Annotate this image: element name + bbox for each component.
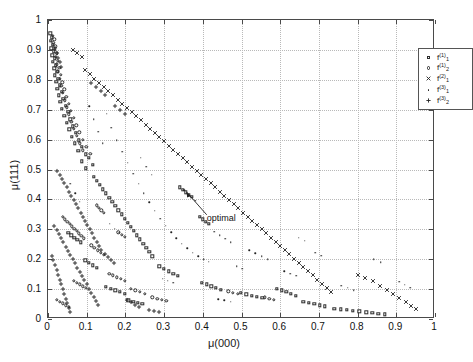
legend-label: f(3)2: [437, 96, 449, 106]
x-tick-label: 0.9: [388, 321, 402, 332]
legend-marker-circle-icon: [425, 65, 432, 72]
legend-label: f(2)1: [437, 74, 449, 84]
x-tick-label: 0.5: [234, 321, 248, 332]
x-axis-title: μ(000): [0, 337, 448, 349]
legend: f(1)1f(1)2f(2)1f(3)1f(3)2: [418, 48, 473, 110]
x-tick-label: 0.2: [117, 321, 131, 332]
tick-mark-x: [435, 20, 436, 24]
legend-marker-x-icon: [425, 75, 432, 82]
x-tick-label: 1: [431, 321, 437, 332]
legend-label: f(1)1: [437, 53, 449, 63]
y-axis-title: μ(111): [8, 135, 20, 215]
y-tick-label: 0.7: [11, 103, 41, 114]
x-tick-label: 0.3: [156, 321, 170, 332]
plot-area: optimal f(1)1f(1)2f(2)1f(3)1f(3)2: [47, 19, 434, 318]
legend-marker-plus-icon: [425, 97, 432, 104]
tick-mark-x: [435, 313, 436, 317]
y-tick-label: 0.2: [11, 253, 41, 264]
legend-label: f(1)2: [437, 63, 449, 73]
x-tick-label: 0.6: [272, 321, 286, 332]
legend-item: f(1)2: [425, 63, 472, 74]
optimal-arrow: [48, 20, 435, 319]
legend-item: f(2)1: [425, 74, 472, 85]
legend-marker-square-icon: [425, 54, 432, 61]
y-tick-label: 0.1: [11, 283, 41, 294]
x-tick-label: 0.4: [195, 321, 209, 332]
x-tick-label: 0.7: [311, 321, 325, 332]
y-tick-label: 0.9: [11, 43, 41, 54]
legend-item: f(3)2: [425, 95, 472, 106]
y-tick-label: 0.3: [11, 223, 41, 234]
y-tick-label: 0.8: [11, 73, 41, 84]
tick-mark-y: [429, 319, 433, 320]
y-tick-label: 1: [11, 14, 41, 25]
legend-item: f(3)1: [425, 84, 472, 95]
x-tick-label: 0: [44, 321, 50, 332]
legend-item: f(1)1: [425, 52, 472, 63]
x-tick-label: 0.8: [350, 321, 364, 332]
legend-marker-dot-icon: [425, 86, 432, 93]
tick-mark-y: [48, 319, 52, 320]
legend-label: f(3)1: [437, 85, 449, 95]
x-tick-label: 0.1: [79, 321, 93, 332]
y-tick-label: 0: [11, 313, 41, 324]
optimal-annotation-label: optimal: [207, 213, 236, 223]
